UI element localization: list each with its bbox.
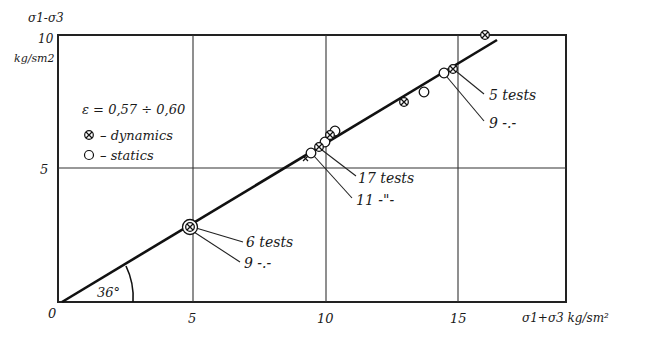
y-axis-unit: kg/sm2 bbox=[14, 52, 55, 65]
dynamic-point bbox=[449, 65, 458, 74]
annotation-17-tests: 17 tests bbox=[358, 170, 414, 186]
y-tick-5: 5 bbox=[40, 162, 48, 177]
annotation-5-tests: 5 tests bbox=[489, 87, 536, 103]
stress-chart: 36° σ1-σ3 10 kg/sm2 5 0 5 10 15 σ1+σ3 kg… bbox=[0, 0, 650, 348]
legend-dynamics-icon bbox=[85, 131, 94, 140]
angle-label: 36° bbox=[97, 285, 120, 300]
angle-arc bbox=[126, 266, 133, 302]
x-tick-15: 15 bbox=[450, 311, 467, 326]
y-axis-label: σ1-σ3 bbox=[28, 11, 64, 25]
legend-statics-label: – statics bbox=[100, 148, 154, 163]
dynamic-point bbox=[326, 131, 335, 140]
dynamic-point bbox=[400, 98, 409, 107]
annotation-11-tests: 11 -"- bbox=[356, 192, 394, 208]
y-tick-10: 10 bbox=[38, 32, 54, 46]
x-tick-0: 0 bbox=[48, 306, 56, 321]
annotation-9-tests-a: 9 -.- bbox=[244, 255, 272, 271]
legend-epsilon: ε = 0,57 ÷ 0,60 bbox=[82, 102, 185, 117]
leader-lines bbox=[194, 72, 484, 262]
dynamic-point bbox=[186, 223, 195, 232]
fit-line bbox=[62, 40, 497, 302]
dynamic-point bbox=[481, 31, 490, 40]
dynamic-point bbox=[315, 143, 324, 152]
annotation-9-tests-b: 9 -.- bbox=[489, 115, 517, 131]
legend-statics-icon bbox=[85, 151, 94, 160]
annotation-6-tests: 6 tests bbox=[246, 234, 293, 250]
x-axis-label: σ1+σ3 kg/sm² bbox=[522, 311, 609, 325]
legend: ε = 0,57 ÷ 0,60 – dynamics – statics bbox=[82, 102, 185, 163]
legend-dynamics-label: – dynamics bbox=[100, 128, 173, 143]
x-tick-5: 5 bbox=[188, 311, 196, 326]
x-tick-10: 10 bbox=[317, 311, 334, 326]
grid bbox=[58, 35, 566, 302]
